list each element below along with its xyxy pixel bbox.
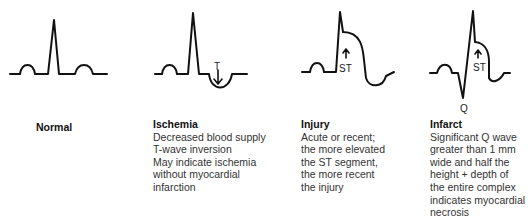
description-line: the injury [301, 181, 385, 194]
description-line: Acute or recent; [301, 131, 385, 144]
description-line: indicates myocardial [430, 194, 525, 207]
description-line: T-wave inversion [153, 143, 266, 156]
description-line: the ST segment, [301, 156, 385, 169]
st-up-arrow-icon [343, 49, 349, 58]
description-line: May indicate ischemia [153, 156, 266, 169]
normal-waveform [10, 20, 107, 74]
panel-infarct: Infarct Significant Q wave greater than … [430, 118, 525, 219]
description-line: the more elevated [301, 143, 385, 156]
panel-title: Normal [36, 121, 72, 134]
panel-title: Ischemia [153, 118, 266, 131]
q-wave-label: Q [460, 103, 468, 114]
injury-waveform: ST [302, 12, 394, 85]
st-up-arrow-icon [475, 50, 481, 58]
st-segment-label: ST [339, 63, 352, 74]
description-line: the entire complex [430, 181, 525, 194]
panel-ischemia: Ischemia Decreased blood supply T-wave i… [153, 118, 266, 194]
description-line: infarction [153, 181, 266, 194]
description-line: Significant Q wave [430, 131, 525, 144]
panel-title: Infarct [430, 118, 525, 131]
description-line: without myocardial [153, 168, 266, 181]
description-line: the more recent [301, 168, 385, 181]
infarct-waveform: ST Q [430, 11, 510, 114]
st-segment-label: ST [473, 62, 486, 73]
description-line: height + depth of [430, 168, 525, 181]
description-line: Decreased blood supply [153, 131, 266, 144]
panel-title: Injury [301, 118, 385, 131]
description-line: greater than 1 mm [430, 143, 525, 156]
panel-normal: Normal [36, 121, 72, 134]
ischemia-waveform: T [155, 13, 247, 88]
description-line: wide and half the [430, 156, 525, 169]
panel-injury: Injury Acute or recent; the more elevate… [301, 118, 385, 194]
description-line: necrosis [430, 206, 525, 219]
t-wave-down-arrow-icon [214, 70, 222, 84]
t-wave-label: T [214, 61, 220, 72]
